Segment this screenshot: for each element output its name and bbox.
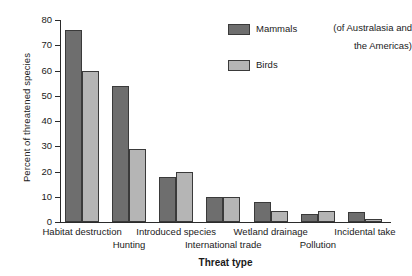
legend-item-mammals: Mammals (of Australasia and [228,22,398,40]
y-axis-tick-label: 60 [28,66,52,76]
bar-birds [82,71,99,223]
y-axis-tick [55,45,60,46]
x-axis-label: Introduced species [136,226,216,237]
legend-note-line2: the Americas) [316,40,412,52]
bar-group [65,20,112,222]
y-axis-tick-label-wrap: 80 [22,15,52,25]
x-axis-label: International trade [185,239,262,250]
x-axis-label: Habitat destruction [43,226,122,237]
legend-item-birds: Birds [228,58,398,76]
legend-swatch-birds [228,60,250,71]
legend-note-line1: (of Australasia and [316,22,412,34]
legend-label-mammals: Mammals [256,22,297,36]
y-axis-tick-label-wrap: 50 [22,91,52,101]
y-axis-tick-label: 10 [28,192,52,202]
bar-birds [223,197,240,222]
y-axis-tick-label: 20 [28,167,52,177]
y-axis-tick [55,197,60,198]
bar-mammals [159,177,176,222]
y-axis-tick-label-wrap: 20 [22,167,52,177]
bar-birds [271,211,288,222]
y-axis-tick [55,20,60,21]
legend-label-birds: Birds [256,58,278,72]
bar-mammals [65,30,82,222]
y-axis-tick-label: 30 [28,141,52,151]
y-axis-tick [55,146,60,147]
legend: Mammals (of Australasia and the Americas… [228,22,398,76]
y-axis-tick-label: 80 [28,15,52,25]
bar-group [159,20,206,222]
x-axis-label: Pollution [300,239,336,250]
x-axis-label: Incidental take [334,226,395,237]
y-axis-tick-label-wrap: 70 [22,40,52,50]
x-axis-label: Wetland drainage [234,226,308,237]
x-axis-label: Hunting [113,239,146,250]
legend-note-row: the Americas) [228,40,398,58]
bar-mammals [301,214,318,222]
y-axis-tick-label: 50 [28,91,52,101]
bar-mammals [348,212,365,222]
y-axis-tick-label-wrap: 60 [22,66,52,76]
y-axis-tick [55,96,60,97]
x-axis-line [60,222,391,223]
bar-mammals [206,197,223,222]
bar-group [112,20,159,222]
y-axis-tick-label-wrap: 40 [22,116,52,126]
bar-birds [129,149,146,222]
legend-swatch-mammals [228,24,250,35]
y-axis-tick-label-wrap: 10 [22,192,52,202]
bar-mammals [112,86,129,222]
y-axis-tick [55,172,60,173]
bar-mammals [254,202,271,222]
bar-birds [318,211,335,222]
y-axis-tick [55,121,60,122]
y-axis-tick-label: 40 [28,116,52,126]
bar-birds [176,172,193,223]
x-axis-title: Threat type [60,257,391,268]
y-axis-tick-label-wrap: 30 [22,141,52,151]
y-axis-tick [55,71,60,72]
y-axis-tick-label: 70 [28,40,52,50]
